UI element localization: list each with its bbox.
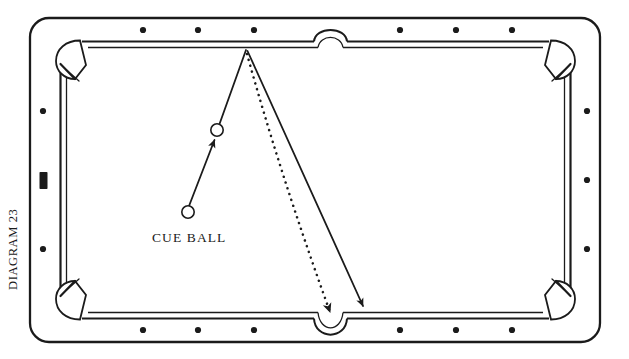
diamond-right-0 [584,108,590,114]
diamond-bottom-4 [453,327,459,333]
diamond-bottom-2 [251,327,257,333]
object-ball[interactable] [211,124,223,136]
diamond-bottom-5 [509,327,515,333]
diamond-top-3 [397,27,403,33]
pool-table-diagram: CUE BALL DIAGRAM 23 [0,0,629,359]
table-outer-frame [30,18,600,342]
outer-frame-rect [30,18,600,342]
diagram-canvas: CUE BALL DIAGRAM 23 [0,0,629,359]
diamond-bottom-1 [195,327,201,333]
diagram-caption: DIAGRAM 23 [6,209,20,290]
cue-ball-label: CUE BALL [152,230,226,245]
diamond-top-1 [195,27,201,33]
left-rail-center-marker [40,172,48,189]
diamond-top-0 [140,27,146,33]
diamond-right-2 [584,246,590,252]
diamond-left-0 [40,108,46,114]
diamond-top-4 [453,27,459,33]
diamond-left-1 [40,246,46,252]
diamond-right-1 [584,177,590,183]
diamond-bottom-0 [140,327,146,333]
diamond-top-5 [509,27,515,33]
diamond-bottom-3 [397,327,403,333]
cue-ball[interactable] [182,206,194,218]
diamond-top-2 [251,27,257,33]
